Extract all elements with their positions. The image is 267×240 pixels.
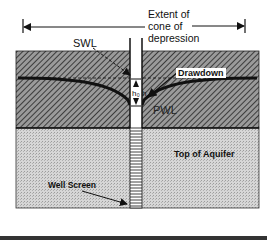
top-of-aquifer-label: Top of Aquifer: [174, 149, 235, 159]
extent-of-cone-label: Extent of cone of depression: [148, 8, 199, 44]
title-line-1: Extent of: [148, 8, 199, 20]
well-screen: [130, 128, 142, 208]
pwl-label: PWL: [153, 104, 177, 116]
hq-label: h₀ h: [132, 89, 146, 98]
title-line-2: cone of: [148, 20, 199, 32]
well-drawdown-diagram: [0, 0, 267, 240]
well-screen-label: Well Screen: [48, 180, 96, 190]
bottom-rule: [0, 236, 267, 240]
title-line-3: depression: [148, 32, 199, 44]
drawdown-label: Drawdown: [176, 68, 226, 78]
swl-label: SWL: [73, 37, 97, 49]
